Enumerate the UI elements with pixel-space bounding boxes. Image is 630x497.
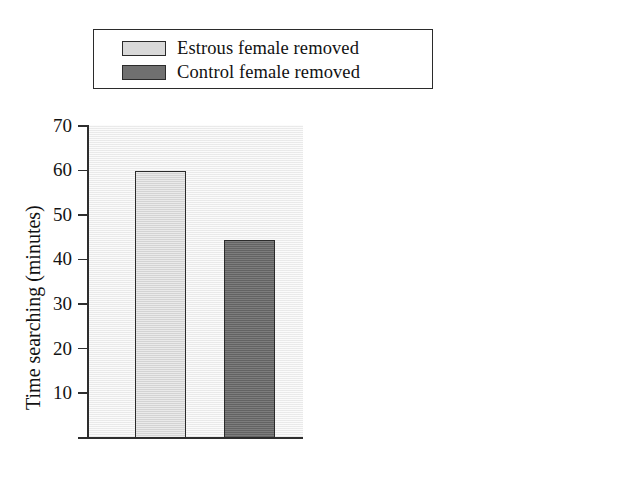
y-axis-title-left: Time searching (minutes) [22, 205, 45, 410]
y-tick-label-left-70: 70 [26, 116, 72, 135]
y-tick-left-50 [78, 214, 87, 216]
y-tick-left-60 [78, 170, 87, 172]
y-axis-line-left [87, 125, 89, 438]
y-tick-left-70 [78, 125, 87, 127]
chart-panel-time-searching: 10 20 30 40 50 60 70 Time searching (min… [0, 0, 320, 497]
y-tick-left-40 [78, 259, 87, 261]
bar-time-control [224, 240, 275, 438]
y-tick-left-10 [78, 392, 87, 394]
y-tick-left-20 [78, 348, 87, 350]
figure-container: Estrous female removed Control female re… [0, 0, 630, 497]
y-tick-label-left-60: 60 [26, 160, 72, 179]
y-tick-left-0 [78, 437, 87, 439]
bar-time-estrous [135, 171, 186, 438]
chart-panel-number-of-visits: 2 4 6 8 10 12 14 Number of visits [318, 0, 630, 497]
y-tick-left-30 [78, 303, 87, 305]
